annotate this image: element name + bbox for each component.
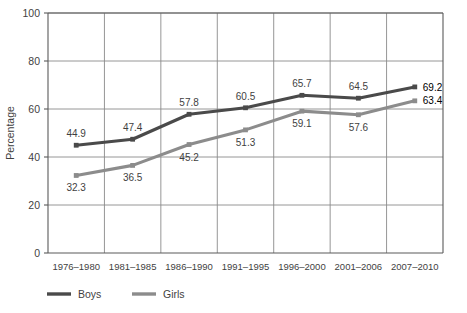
y-tick-label: 40 xyxy=(28,151,40,163)
chart-container: 020406080100 1976–19801981–19851986–1990… xyxy=(0,0,467,313)
data-label: 36.5 xyxy=(123,172,143,183)
data-label: 57.8 xyxy=(179,97,199,108)
x-tick-label: 1991–1995 xyxy=(222,261,270,272)
y-tick-label: 60 xyxy=(28,103,40,115)
y-tick-label: 0 xyxy=(34,247,40,259)
data-label: 65.7 xyxy=(292,78,312,89)
legend-label-girls: Girls xyxy=(163,288,185,300)
data-point-marker xyxy=(412,98,417,103)
data-point-marker xyxy=(187,112,192,117)
y-tick-label: 20 xyxy=(28,199,40,211)
data-point-marker xyxy=(187,142,192,147)
data-label: 32.3 xyxy=(66,182,86,193)
data-point-marker xyxy=(243,127,248,132)
data-label: 69.2 xyxy=(423,82,443,93)
legend-label-boys: Boys xyxy=(78,288,101,300)
x-tick-label: 2007–2010 xyxy=(391,261,439,272)
x-tick-label: 1996–2000 xyxy=(278,261,326,272)
data-label: 45.2 xyxy=(179,152,199,163)
data-point-marker xyxy=(130,137,135,142)
data-point-marker xyxy=(243,105,248,110)
y-tick-label: 80 xyxy=(28,55,40,67)
data-point-marker xyxy=(74,173,79,178)
data-point-marker xyxy=(356,96,361,101)
data-label: 60.5 xyxy=(236,91,256,102)
y-axis-title: Percentage xyxy=(4,106,16,160)
y-axis-label: Percentage xyxy=(4,106,16,160)
data-label: 64.5 xyxy=(349,81,369,92)
data-point-marker xyxy=(300,93,305,98)
x-tick-label: 1976–1980 xyxy=(52,261,100,272)
x-axis-ticks: 1976–19801981–19851986–19901991–19951996… xyxy=(52,261,438,272)
data-point-marker xyxy=(300,109,305,114)
data-label: 51.3 xyxy=(236,137,256,148)
x-tick-label: 1986–1990 xyxy=(165,261,213,272)
data-point-marker xyxy=(412,85,417,90)
data-label: 47.4 xyxy=(123,122,143,133)
data-point-marker xyxy=(356,112,361,117)
data-label: 63.4 xyxy=(423,95,443,106)
data-label: 57.6 xyxy=(349,122,369,133)
x-tick-label: 2001–2006 xyxy=(335,261,383,272)
data-point-marker xyxy=(74,143,79,148)
data-label: 59.1 xyxy=(292,118,312,129)
data-label: 44.9 xyxy=(66,128,86,139)
y-tick-label: 100 xyxy=(22,7,40,19)
x-tick-label: 1981–1985 xyxy=(109,261,157,272)
line-chart: 020406080100 1976–19801981–19851986–1990… xyxy=(0,0,467,313)
data-point-marker xyxy=(130,163,135,168)
